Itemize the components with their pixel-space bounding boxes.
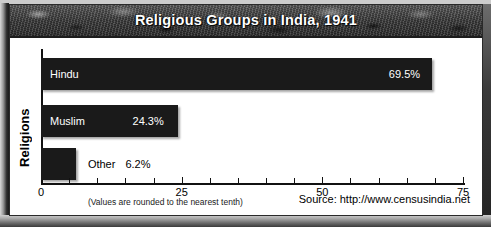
- bar-label-other: Other6.2%: [88, 148, 151, 180]
- chart-note: (Values are rounded to the nearest tenth…: [88, 197, 243, 207]
- y-axis-label: Religions: [16, 93, 34, 183]
- x-tick-55: [350, 178, 351, 183]
- frame-left-edge: [0, 3, 9, 224]
- x-axis-line: [41, 183, 465, 185]
- chart-card: Religious Groups in India, 1941 Religion…: [9, 4, 483, 216]
- bar-muslim: Muslim24.3%: [41, 105, 178, 137]
- bar-other: [41, 148, 76, 180]
- x-tick-65: [407, 178, 408, 183]
- bar-value-muslim: 24.3%: [133, 115, 164, 127]
- bar-label-muslim: Muslim: [50, 115, 85, 127]
- x-tick-5: [69, 178, 70, 183]
- bar-value-hindu: 69.5%: [389, 68, 420, 80]
- bar-label-hindu: Hindu: [50, 68, 79, 80]
- x-tick-30: [210, 178, 211, 183]
- frame-bottom-edge: [0, 215, 491, 227]
- x-tick-label-0: 0: [38, 186, 44, 198]
- x-tick-75: [463, 177, 464, 183]
- plot-area: Hindu69.5%Muslim24.3%Other6.2%0255075: [41, 46, 465, 185]
- x-tick-45: [294, 178, 295, 183]
- bar-name-other: Other: [88, 158, 116, 170]
- chart-title-band: Religious Groups in India, 1941: [10, 5, 482, 38]
- bar-value-other: 6.2%: [125, 158, 150, 170]
- chart-screenshot: Religious Groups in India, 1941 Religion…: [0, 0, 491, 227]
- bar-hindu: Hindu69.5%: [41, 58, 432, 90]
- chart-body: Religions Hindu69.5%Muslim24.3%Other6.2%…: [10, 38, 482, 215]
- x-tick-50: [322, 177, 323, 183]
- x-tick-40: [266, 178, 267, 183]
- x-tick-20: [154, 178, 155, 183]
- x-tick-70: [435, 178, 436, 183]
- x-tick-60: [379, 178, 380, 183]
- x-tick-25: [182, 177, 183, 183]
- chart-source: Source: http://www.censusindia.net: [299, 193, 470, 205]
- x-tick-15: [125, 178, 126, 183]
- x-tick-10: [97, 178, 98, 183]
- x-tick-35: [238, 178, 239, 183]
- chart-title: Religious Groups in India, 1941: [10, 5, 482, 36]
